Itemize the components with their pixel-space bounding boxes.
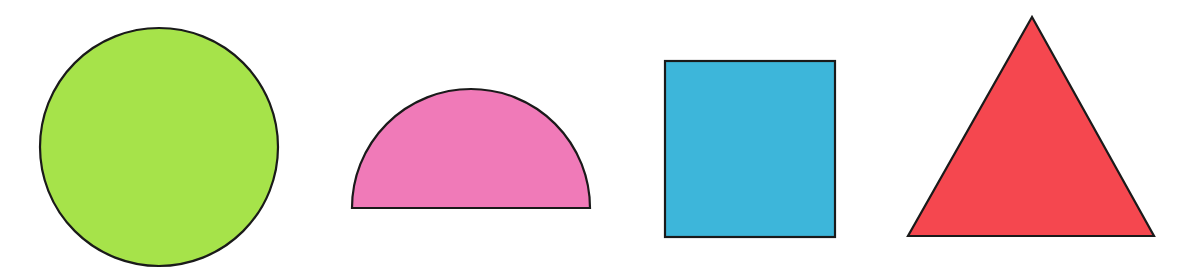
shapes-canvas (0, 0, 1195, 273)
pink-semicircle-shape (352, 89, 590, 208)
green-circle-shape (40, 28, 278, 266)
blue-square-shape (665, 61, 835, 237)
shapes-svg (0, 0, 1195, 273)
red-triangle-shape (908, 17, 1154, 236)
